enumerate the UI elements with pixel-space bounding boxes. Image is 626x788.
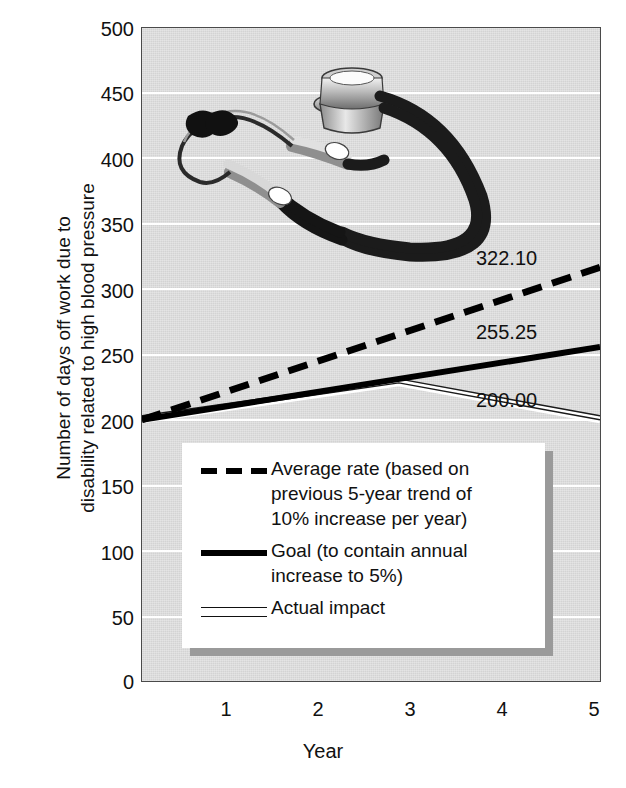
- y-tick-50: 50: [72, 608, 134, 628]
- legend-label-goal-line-1: Goal (to contain annual: [271, 538, 467, 563]
- y-tick-0: 0: [72, 672, 134, 692]
- y-tick-300: 300: [72, 281, 134, 301]
- y-tick-150: 150: [72, 477, 134, 497]
- y-tick-350: 350: [72, 215, 134, 235]
- dashed-line-key-icon: [197, 459, 271, 483]
- y-tick-450: 450: [72, 84, 134, 104]
- data-label-actual-impact: 200.00: [476, 389, 537, 412]
- x-tick-2: 2: [298, 698, 338, 721]
- y-tick-250: 250: [72, 346, 134, 366]
- x-tick-4: 4: [482, 698, 522, 721]
- hollow-line-key-icon: [197, 598, 271, 622]
- legend-label-average-rate: Average rate (based on previous 5-year t…: [271, 456, 472, 531]
- data-label-goal: 255.25: [476, 321, 537, 344]
- y-tick-200: 200: [72, 412, 134, 432]
- solid-line-key-icon: [197, 541, 271, 565]
- x-tick-5: 5: [574, 698, 614, 721]
- legend-label-average-rate-line-1: Average rate (based on: [271, 456, 472, 481]
- data-label-average-rate: 322.10: [476, 247, 537, 270]
- legend-label-actual-impact: Actual impact: [271, 595, 385, 620]
- x-tick-3: 3: [390, 698, 430, 721]
- legend-item-actual-impact[interactable]: Actual impact: [197, 595, 534, 622]
- legend-label-goal-line-2: increase to 5%): [271, 563, 467, 588]
- legend-item-average-rate[interactable]: Average rate (based on previous 5-year t…: [197, 456, 534, 531]
- legend-label-average-rate-line-2: previous 5-year trend of: [271, 481, 472, 506]
- legend-label-average-rate-line-3: 10% increase per year): [271, 506, 472, 531]
- legend-label-goal: Goal (to contain annual increase to 5%): [271, 538, 467, 588]
- y-tick-100: 100: [72, 543, 134, 563]
- x-tick-1: 1: [206, 698, 246, 721]
- legend-item-goal[interactable]: Goal (to contain annual increase to 5%): [197, 538, 534, 588]
- chart-figure: Number of days off work due to disabilit…: [0, 0, 626, 788]
- y-tick-500: 500: [72, 19, 134, 39]
- chart-legend: Average rate (based on previous 5-year t…: [182, 443, 545, 648]
- y-axis-tick-labels: 500 450 400 350 300 250 200 150 100 50 0: [68, 0, 134, 788]
- legend-label-actual-impact-line-1: Actual impact: [271, 595, 385, 620]
- y-tick-400: 400: [72, 150, 134, 170]
- x-axis-title: Year: [10, 740, 626, 763]
